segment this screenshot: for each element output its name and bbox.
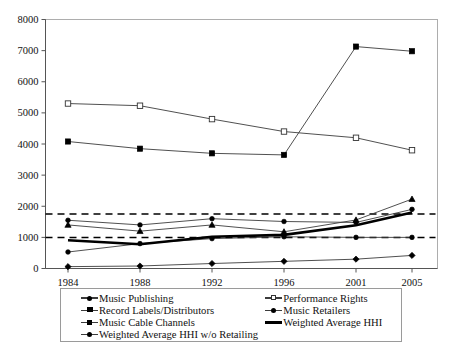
legend-item-music-cable-channels: Music Cable Channels: [81, 316, 263, 328]
legend-item-weighted-average-hhi-wo-retailing: Weighted Average HHI w/o Retailing: [81, 329, 263, 341]
legend-item-music-retailers: Music Retailers: [265, 304, 401, 316]
chart-legend: Music Publishing Record Labels/Distribut…: [60, 288, 402, 342]
data-point: [281, 129, 286, 134]
data-point: [409, 252, 415, 258]
data-point: [354, 235, 359, 240]
data-point: [281, 258, 287, 264]
marker-diamond-icon: [81, 330, 98, 340]
data-point: [409, 148, 414, 153]
series-weighted-average-hhi: [68, 212, 412, 244]
x-tick-label: 1992: [202, 277, 223, 288]
chart-container: 010002000300040005000600070008000 198419…: [0, 0, 458, 362]
y-tick-label: 6000: [18, 76, 39, 87]
y-axis-ticks: [42, 20, 46, 269]
legend-label: Weighted Average HHI: [282, 317, 382, 328]
y-tick-label: 0: [33, 263, 38, 274]
plot-frame: [46, 20, 438, 269]
y-tick-label: 4000: [18, 139, 39, 150]
data-point: [65, 139, 70, 144]
marker-filled-square-icon: [81, 317, 98, 327]
y-tick-label: 3000: [18, 170, 39, 181]
data-point: [209, 151, 214, 156]
data-point: [409, 49, 414, 54]
legend-label: Music Cable Channels: [98, 317, 195, 328]
x-tick-label: 1984: [58, 277, 80, 288]
data-point: [209, 260, 215, 266]
marker-triangle-icon: [81, 305, 98, 315]
y-tick-label: 7000: [18, 45, 39, 56]
marker-solid-line-icon: [265, 317, 282, 327]
y-axis-tick-labels: 010002000300040005000600070008000: [18, 14, 39, 274]
data-point: [65, 222, 71, 228]
y-tick-label: 5000: [18, 107, 39, 118]
legend-column-left: Music Publishing Record Labels/Distribut…: [61, 292, 263, 341]
data-point: [138, 223, 143, 228]
x-axis-tick-labels: 198419881992199620012005: [58, 277, 423, 288]
series-music-cable-channels: [65, 44, 414, 158]
x-tick-label: 2005: [402, 277, 423, 288]
marker-plus-icon: [81, 293, 98, 303]
legend-item-performance-rights: Performance Rights: [265, 292, 401, 304]
legend-column-right: Performance Rights Music Retailers Weigh…: [263, 292, 401, 341]
y-tick-label: 2000: [18, 201, 39, 212]
x-tick-label: 2001: [346, 277, 367, 288]
y-tick-label: 8000: [18, 14, 39, 25]
data-point: [282, 219, 287, 224]
line-chart-plot: 010002000300040005000600070008000 198419…: [0, 0, 458, 300]
x-axis-ticks: [68, 269, 412, 273]
data-point: [137, 146, 142, 151]
data-point: [209, 116, 214, 121]
series-weighted-average-hhi-w-o-retailing: [65, 252, 415, 269]
legend-item-record-labels-distributors: Record Labels/Distributors: [81, 304, 263, 316]
marker-plus-small-icon: [265, 305, 282, 315]
legend-label: Music Publishing: [98, 293, 173, 304]
marker-open-square-icon: [265, 293, 282, 303]
data-point: [209, 222, 215, 228]
legend-item-weighted-average-hhi: Weighted Average HHI: [265, 316, 401, 328]
legend-label: Music Retailers: [282, 305, 350, 316]
data-point: [410, 235, 415, 240]
series-record-labels-distributors: [65, 196, 415, 234]
data-point: [210, 216, 215, 221]
x-tick-label: 1996: [274, 277, 295, 288]
data-point: [353, 135, 358, 140]
series-performance-rights: [65, 101, 414, 153]
data-point: [353, 256, 359, 262]
legend-label: Performance Rights: [282, 293, 367, 304]
data-point: [281, 152, 286, 157]
y-tick-label: 1000: [18, 232, 39, 243]
legend-label: Record Labels/Distributors: [98, 305, 214, 316]
data-point: [410, 207, 415, 212]
legend-item-music-publishing: Music Publishing: [81, 292, 263, 304]
data-point: [353, 44, 358, 49]
data-point: [137, 103, 142, 108]
series-group: [65, 44, 415, 270]
data-point: [409, 196, 415, 202]
x-tick-label: 1988: [130, 277, 151, 288]
data-point: [65, 101, 70, 106]
data-point: [66, 250, 71, 255]
legend-label: Weighted Average HHI w/o Retailing: [98, 329, 258, 340]
